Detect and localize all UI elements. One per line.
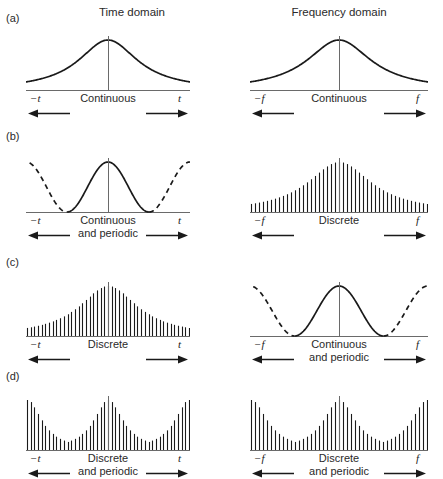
arrow-left-icon: [252, 229, 294, 241]
arrow-left-icon: [252, 467, 294, 479]
plot-b-right: [250, 148, 428, 220]
arrow-right-icon: [146, 467, 188, 479]
column-header-time-domain: Time domain: [64, 6, 200, 18]
panel-caption: Discrete: [250, 214, 428, 227]
fourier-transform-family-figure: Time domain Frequency domain (a) (b) (c)…: [0, 0, 443, 479]
arrow-right-icon: [384, 467, 426, 479]
plot-b-left: [26, 148, 190, 220]
plot-a-right: [250, 26, 428, 98]
row-label-d: (d): [6, 370, 19, 382]
panel-caption: Continuous: [250, 92, 428, 105]
panel-caption: Discrete: [26, 338, 190, 351]
arrow-left-icon: [28, 229, 70, 241]
arrow-right-icon: [146, 353, 188, 365]
plot-d-right: [250, 386, 428, 458]
panel-caption: Continuous: [26, 92, 190, 105]
arrow-right-icon: [384, 353, 426, 365]
arrow-left-icon: [252, 353, 294, 365]
arrow-left-icon: [28, 467, 70, 479]
arrow-left-icon: [28, 353, 70, 365]
arrow-left-icon: [28, 107, 70, 119]
row-label-b: (b): [6, 130, 19, 142]
plot-d-left: [26, 386, 190, 458]
arrow-right-icon: [384, 229, 426, 241]
row-label-c: (c): [6, 256, 19, 268]
arrow-right-icon: [146, 229, 188, 241]
plot-c-left: [26, 272, 190, 344]
column-header-frequency-domain: Frequency domain: [264, 6, 414, 18]
arrow-right-icon: [146, 107, 188, 119]
plot-c-right: [250, 272, 428, 344]
arrow-right-icon: [384, 107, 426, 119]
arrow-left-icon: [252, 107, 294, 119]
row-label-a: (a): [6, 12, 19, 24]
plot-a-left: [26, 26, 190, 98]
